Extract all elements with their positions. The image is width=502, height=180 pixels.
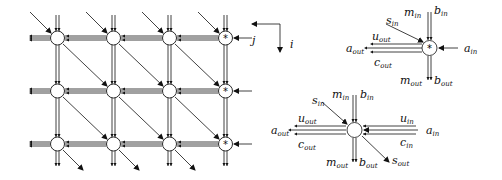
svg-text:sin: sin [386,14,399,28]
svg-text:mout: mout [326,156,348,170]
svg-text:min: min [404,6,422,20]
down-arrowheads [55,28,229,166]
axis-indicator [252,24,280,52]
svg-text:sout: sout [392,154,409,168]
svg-text:mout: mout [400,74,422,88]
boundary-cell-labels: min bin sin uout aout ain cout mout bout [346,4,478,88]
svg-text:aout: aout [346,42,364,56]
svg-text:bout: bout [434,74,453,88]
systolic-array-diagram: * * * j i * min bin sin uout aout ain co… [0,0,502,180]
axis-label-j: j [249,34,256,47]
boundary-cell-detail [364,12,458,80]
svg-text:aout: aout [271,124,289,138]
svg-text:uin: uin [400,112,414,126]
svg-text:cout: cout [374,56,392,70]
svg-text:bin: bin [434,4,448,18]
svg-text:ain: ain [426,124,440,138]
svg-text:*: * [223,86,228,97]
svg-text:cin: cin [400,136,413,150]
svg-text:cout: cout [298,138,316,152]
svg-text:*: * [223,139,228,150]
svg-text:sin: sin [312,94,325,108]
svg-text:uout: uout [372,30,391,44]
svg-text:bin: bin [360,88,374,102]
boundary-cell-marker: * [427,43,432,54]
axis-label-i: i [290,38,294,51]
svg-text:uout: uout [298,112,317,126]
svg-text:ain: ain [464,42,478,56]
svg-text:min: min [332,88,350,102]
svg-text:bout: bout [359,156,378,170]
svg-text:*: * [223,33,228,44]
boundary-input-arrows [234,38,252,144]
